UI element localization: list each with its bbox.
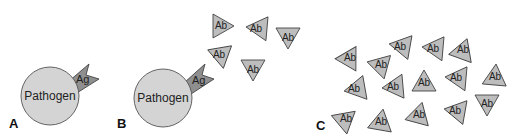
antibody-label: Ab xyxy=(340,113,353,124)
diagram-canvas: Ag Pathogen Ag Pathogen Ab Ab Ab xyxy=(0,0,518,138)
antibody-label: Ab xyxy=(387,81,400,92)
pathogen-label: Pathogen xyxy=(24,89,75,103)
pathogen-label: Pathogen xyxy=(137,91,188,105)
antibody-label: Ab xyxy=(213,49,226,60)
panel-label-b: B xyxy=(117,116,126,131)
panel-b: Ag Pathogen Ab Ab Ab Ab Ab xyxy=(134,14,300,127)
pathogen-cell: Pathogen xyxy=(21,67,79,125)
antibody-label: Ab xyxy=(481,98,494,109)
antibody-label: Ab xyxy=(450,72,463,83)
panel-a: Ag Pathogen xyxy=(21,64,99,125)
antigen-label: Ag xyxy=(76,73,89,85)
antibody-label: Ab xyxy=(282,32,295,43)
antibody-label: Ab xyxy=(394,41,407,52)
antibody-label: Ab xyxy=(449,105,462,116)
panel-label-a: A xyxy=(9,116,18,131)
antigen-label: Ag xyxy=(192,74,205,86)
antibody-label: Ab xyxy=(489,71,502,82)
antibody-label: Ab xyxy=(413,109,426,120)
panel-label-c: C xyxy=(316,118,325,133)
antibody-label: Ab xyxy=(457,44,470,55)
immune-diagram: Ag Pathogen Ag Pathogen Ab Ab Ab xyxy=(0,0,518,138)
antibody-label: Ab xyxy=(418,77,431,88)
antibody-label: Ab xyxy=(427,43,440,54)
antibody-label: Ab xyxy=(247,64,260,75)
antibody-label: Ab xyxy=(215,20,228,31)
pathogen-cell: Pathogen xyxy=(134,69,192,127)
antibody-label: Ab xyxy=(375,116,388,127)
antibody-label: Ab xyxy=(344,52,357,63)
panel-c: Ab Ab Ab Ab Ab Ab Ab Ab Ab Ab Ab Ab xyxy=(331,32,508,134)
antibody-label: Ab xyxy=(250,23,263,34)
antibody-label: Ab xyxy=(348,83,361,94)
antibody-label: Ab xyxy=(375,59,388,70)
